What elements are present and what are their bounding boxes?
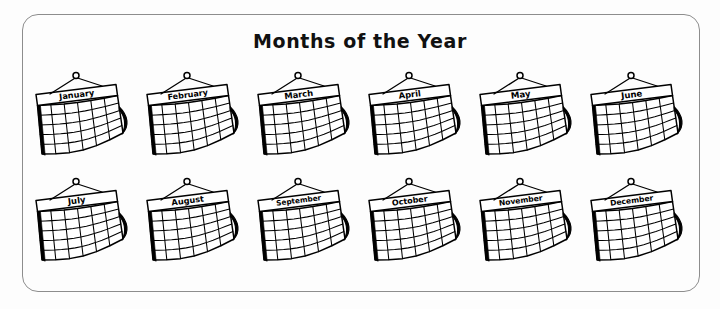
wall-calendar-icon: May [474, 70, 582, 170]
wall-calendar-icon: April [363, 70, 471, 170]
calendar-item-november: November [472, 176, 583, 282]
calendar-item-march: March [250, 70, 361, 176]
calendar-item-october: October [361, 176, 472, 282]
wall-calendar-icon: September [252, 176, 360, 276]
wall-calendar-icon: October [363, 176, 471, 276]
calendar-hook-nail-icon [73, 179, 79, 185]
worksheet-page: Months of the Year JanuaryFebruaryMarchA… [0, 0, 720, 309]
wall-calendar-icon: July [30, 176, 138, 276]
wall-calendar-icon: January [30, 70, 138, 170]
calendar-item-december: December [583, 176, 694, 282]
calendar-hook-nail-icon [184, 179, 190, 185]
wall-calendar-icon: March [252, 70, 360, 170]
calendar-item-may: May [472, 70, 583, 176]
calendar-item-september: September [250, 176, 361, 282]
calendar-hook-nail-icon [517, 73, 523, 79]
calendar-item-january: January [28, 70, 139, 176]
wall-calendar-icon: February [141, 70, 249, 170]
wall-calendar-icon: June [585, 70, 693, 170]
calendar-item-april: April [361, 70, 472, 176]
wall-calendar-icon: August [141, 176, 249, 276]
calendar-hook-nail-icon [295, 73, 301, 79]
calendar-item-august: August [139, 176, 250, 282]
calendar-hook-nail-icon [406, 179, 412, 185]
calendar-item-july: July [28, 176, 139, 282]
calendar-hook-nail-icon [184, 73, 190, 79]
calendar-item-february: February [139, 70, 250, 176]
calendar-hook-nail-icon [628, 73, 634, 79]
calendar-hook-nail-icon [628, 179, 634, 185]
calendar-hook-nail-icon [73, 73, 79, 79]
calendar-item-june: June [583, 70, 694, 176]
calendar-hook-nail-icon [517, 179, 523, 185]
wall-calendar-icon: November [474, 176, 582, 276]
calendar-hook-nail-icon [406, 73, 412, 79]
wall-calendar-icon: December [585, 176, 693, 276]
calendar-hook-nail-icon [295, 179, 301, 185]
page-title: Months of the Year [0, 30, 720, 52]
calendar-grid: JanuaryFebruaryMarchAprilMayJuneJulyAugu… [28, 70, 694, 282]
